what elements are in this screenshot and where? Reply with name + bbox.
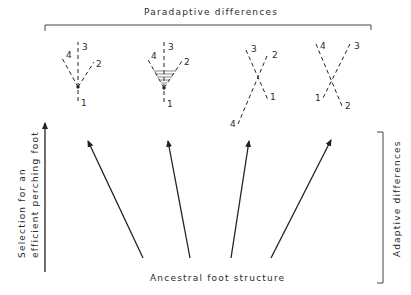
foot1-digit-3: 3 [82, 43, 88, 52]
diagram-canvas [0, 0, 411, 295]
foot4-digit-2: 2 [345, 102, 351, 111]
foot3-digit-2: 2 [272, 51, 278, 60]
foot2-digit-1: 1 [167, 100, 173, 109]
foot2-digit-2: 2 [184, 58, 190, 67]
foot3-digit-1: 1 [270, 93, 276, 102]
title-paradaptive-differences: Paradaptive differences [144, 7, 278, 17]
webbing [154, 71, 176, 83]
selection-label-line2: efficient perching foot [30, 131, 40, 258]
ancestral-foot-structure-label: Ancestral foot structure [150, 273, 285, 283]
foot2-digit-3: 3 [168, 43, 174, 52]
adaptive-differences-label: Adaptive differences [392, 140, 402, 257]
adaptive-bracket [377, 132, 383, 283]
foot4-digit-1: 1 [315, 94, 321, 103]
foot3-digit-3: 3 [251, 45, 257, 54]
foot4-digit-4: 4 [320, 42, 326, 51]
paradaptive-bracket [45, 25, 371, 31]
foot1-digit-2: 2 [96, 60, 102, 69]
foot1-digit-1: 1 [81, 99, 87, 108]
foot2-digit-4: 4 [151, 52, 157, 61]
foot4-digit-3: 3 [354, 42, 360, 51]
foot-diagram-3 [238, 50, 268, 124]
divergence-arrows [88, 140, 331, 258]
selection-label-line1: Selection for an [17, 168, 27, 258]
foot-diagram-4 [316, 44, 350, 106]
foot3-digit-4: 4 [230, 120, 236, 129]
foot1-digit-4: 4 [66, 51, 72, 60]
